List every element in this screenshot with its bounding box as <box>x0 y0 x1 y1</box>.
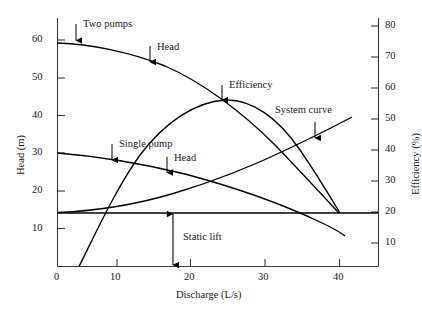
curve-system <box>58 117 353 213</box>
x-tick-10: 10 <box>110 272 121 283</box>
y2-axis-title: Efficiency (%) <box>411 133 422 195</box>
y2-tick-70: 70 <box>385 51 396 62</box>
y-tick-20: 20 <box>32 185 43 196</box>
y-tick-50: 50 <box>32 72 43 83</box>
label-head-lower: Head <box>174 153 196 164</box>
y-tick-30: 30 <box>32 147 43 158</box>
curve-two-pumps-head <box>58 43 340 213</box>
label-efficiency: Efficiency <box>229 80 273 91</box>
y-tick-60: 60 <box>32 34 43 45</box>
x-tick-20: 20 <box>184 272 195 283</box>
y-tick-10: 10 <box>32 223 43 234</box>
y2-tick-30: 30 <box>385 175 396 186</box>
y2-tick-80: 80 <box>385 20 396 31</box>
axis-bottom <box>57 259 379 267</box>
label-single-pump: Single pump <box>119 139 172 150</box>
y2-tick-20: 20 <box>385 206 396 217</box>
x-axis-title: Discharge (L/s) <box>176 290 241 301</box>
label-system-curve: System curve <box>275 105 332 116</box>
x-tick-40: 40 <box>333 272 344 283</box>
x-tick-30: 30 <box>258 272 269 283</box>
y-tick-40: 40 <box>32 110 43 121</box>
label-static-lift: Static lift <box>183 232 222 243</box>
label-two-pumps: Two pumps <box>83 19 132 30</box>
label-head-upper: Head <box>157 42 179 53</box>
y2-tick-50: 50 <box>385 113 396 124</box>
x-tick-0: 0 <box>54 272 59 283</box>
axis-left <box>58 18 66 267</box>
y-axis-title: Head (m) <box>16 135 27 175</box>
y2-tick-10: 10 <box>385 237 396 248</box>
axis-right <box>371 18 379 267</box>
y2-tick-60: 60 <box>385 82 396 93</box>
y2-tick-40: 40 <box>385 144 396 155</box>
